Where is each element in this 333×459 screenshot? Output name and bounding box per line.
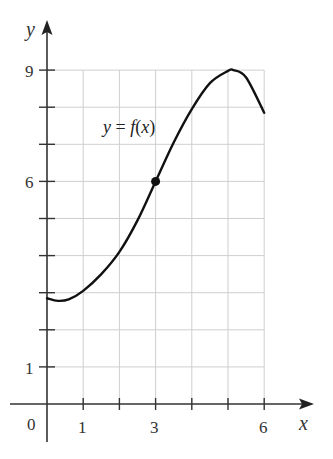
grid-lines: [47, 70, 264, 404]
highlighted-points: [151, 177, 160, 186]
highlighted-point: [151, 177, 160, 186]
y-axis: [42, 20, 53, 442]
x-axis: [10, 399, 314, 410]
function-graph: y x 0 1 3 6 9 6 1 y = f(x): [0, 0, 333, 459]
origin-label: 0: [27, 415, 36, 434]
x-tick-label-1: 1: [78, 418, 87, 437]
y-tick-label-1: 1: [25, 359, 34, 378]
y-tick-label-6: 6: [25, 173, 34, 192]
x-axis-label: x: [298, 412, 308, 434]
x-tick-label-3: 3: [150, 418, 159, 437]
curve-label: y = f(x): [101, 117, 155, 138]
x-tick-label-6: 6: [259, 418, 268, 437]
y-axis-label: y: [24, 18, 35, 41]
y-tick-label-9: 9: [25, 62, 34, 81]
